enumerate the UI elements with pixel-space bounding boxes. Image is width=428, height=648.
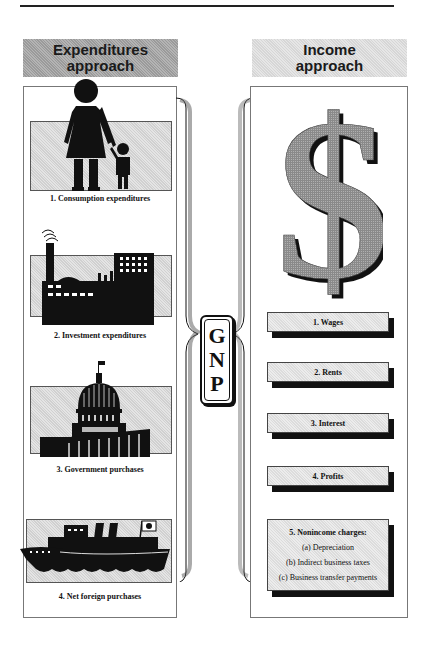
interest-box: 3. Interest [267,413,389,433]
left-brace-icon [172,96,202,582]
depreciation-label: (a) Depreciation [302,540,354,555]
rents-box: 2. Rents [267,362,389,382]
header-text: Income approach [290,42,370,74]
factory-icon [38,227,162,327]
noninflow-charges-box: 5. Nonincome charges: (a) Depreciation (… [267,519,389,591]
net-foreign-purchases-label: 4. Net foreign purchases [24,592,176,601]
income-panel: $ $ 1. Wages 2. Rents 3. Interest 4. Pro… [250,86,408,618]
interest-label: 3. Interest [267,413,389,433]
investment-expenditures-label: 2. Investment expenditures [24,331,176,340]
noninflow-charges-label: 5. Nonincome charges: [289,525,367,540]
government-purchases-label: 3. Government purchases [24,465,176,474]
gnp-letter-p: P [210,372,223,396]
expenditures-approach-header: Expenditures approach [23,39,178,77]
capitol-icon [38,357,162,461]
family-icon [64,79,144,199]
expenditures-panel: 1. Consumption expenditures 2. Investmen… [23,86,177,618]
header-text: Expenditures approach [46,42,156,74]
dollar-sign-icon: $ $ [283,95,383,309]
business-transfer-payments-label: (c) Business transfer payments [279,570,377,585]
noninflow-charges-content: 5. Nonincome charges: (a) Depreciation (… [267,519,389,591]
wages-box: 1. Wages [267,312,389,332]
gnp-letter-n: N [209,348,225,372]
profits-box: 4. Profits [267,466,389,486]
indirect-business-taxes-label: (b) Indirect business taxes [286,555,370,570]
consumption-expenditures-label: 1. Consumption expenditures [24,194,176,203]
svg-text:$: $ [283,95,383,309]
profits-label: 4. Profits [267,466,389,486]
ship-icon [20,519,174,581]
income-approach-header: Income approach [252,39,407,77]
gnp-letter-g: G [208,324,225,348]
rents-label: 2. Rents [267,362,389,382]
top-rule [20,5,394,7]
gnp-box: G N P [200,315,234,405]
wages-label: 1. Wages [267,312,389,332]
